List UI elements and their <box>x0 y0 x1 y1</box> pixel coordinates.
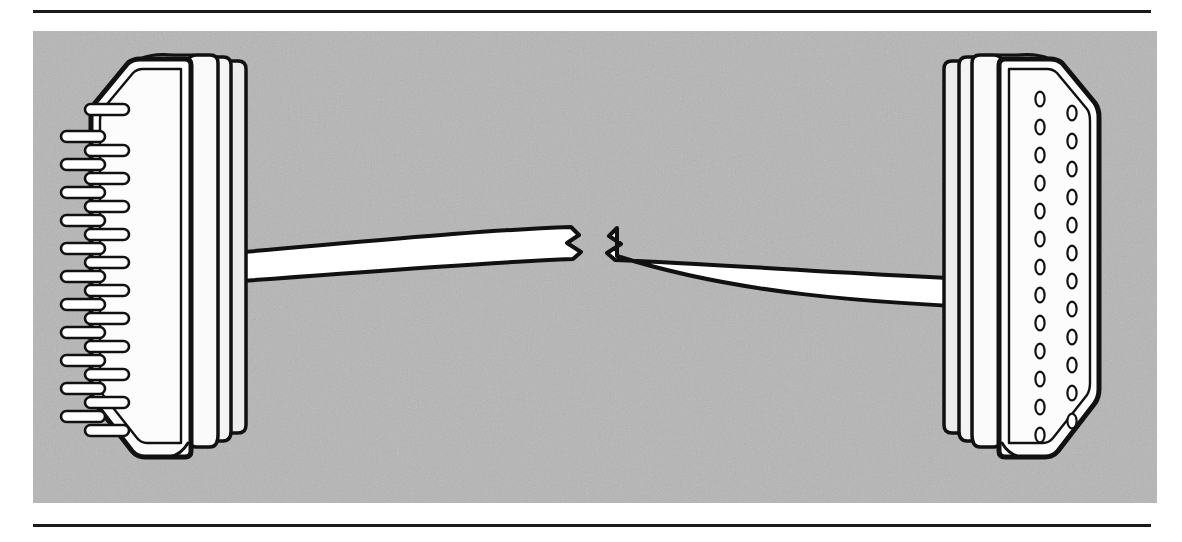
figure-caption-text: DB-25 Serial Interface Cable Line-art il… <box>0 0 1 1</box>
pin <box>85 145 129 156</box>
pin <box>61 159 105 170</box>
socket <box>1035 120 1044 135</box>
socket <box>1035 176 1044 191</box>
horizontal-rule-top <box>33 10 1151 13</box>
socket <box>1067 162 1076 177</box>
socket <box>1035 204 1044 219</box>
socket <box>1067 386 1076 401</box>
pin <box>61 327 105 338</box>
pin <box>61 187 105 198</box>
female-db25-connector <box>944 55 1099 458</box>
pin <box>85 173 129 184</box>
pin <box>85 425 129 436</box>
pin <box>61 243 105 254</box>
pin <box>85 285 129 296</box>
socket <box>1067 246 1076 261</box>
socket <box>1067 190 1076 205</box>
socket <box>1035 400 1044 415</box>
pin <box>85 369 129 380</box>
pin <box>61 299 105 310</box>
figure-root: DB-25 Serial Interface Cable Line-art il… <box>0 0 1182 542</box>
socket <box>1035 232 1044 247</box>
socket <box>1067 358 1076 373</box>
pin <box>85 313 129 324</box>
socket <box>1067 330 1076 345</box>
socket <box>1067 106 1076 121</box>
socket <box>1035 148 1044 163</box>
db25-cable-illustration <box>33 31 1157 503</box>
socket <box>1035 316 1044 331</box>
socket <box>1035 428 1044 443</box>
pin <box>61 383 105 394</box>
socket <box>1067 302 1076 317</box>
socket <box>1035 92 1044 107</box>
figure-title: DB-25 Serial Interface Cable <box>0 0 1 1</box>
pin <box>85 257 129 268</box>
socket <box>1035 372 1044 387</box>
socket <box>1035 288 1044 303</box>
illustration-panel <box>33 31 1157 503</box>
pin <box>85 397 129 408</box>
pin <box>85 229 129 240</box>
pin <box>61 411 105 422</box>
pin <box>61 355 105 366</box>
socket <box>1035 260 1044 275</box>
socket <box>1067 414 1076 429</box>
pin <box>85 341 129 352</box>
pin <box>85 201 129 212</box>
socket <box>1067 274 1076 289</box>
horizontal-rule-bottom <box>33 524 1151 527</box>
male-db25-connector <box>61 55 246 458</box>
pin <box>61 131 105 142</box>
pin <box>61 271 105 282</box>
pin <box>85 104 129 115</box>
socket <box>1035 344 1044 359</box>
socket <box>1067 134 1076 149</box>
socket <box>1067 218 1076 233</box>
pin <box>61 215 105 226</box>
